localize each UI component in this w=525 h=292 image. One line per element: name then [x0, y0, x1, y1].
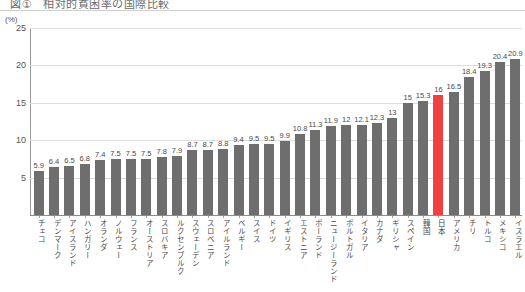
x-axis-tick	[315, 216, 316, 218]
bar[interactable]	[95, 160, 105, 215]
bar[interactable]	[264, 144, 274, 215]
bar-value-label: 18.4	[462, 68, 477, 76]
bar[interactable]	[372, 123, 382, 215]
y-tick-label: 25	[16, 23, 26, 33]
bar-value-label: 7.5	[110, 150, 120, 158]
bar-value-label: 12	[342, 116, 350, 124]
x-axis-tick	[69, 216, 70, 218]
bar[interactable]	[203, 150, 213, 215]
bar-value-label: 5.9	[33, 162, 43, 170]
bar-value-label: 16	[434, 86, 442, 94]
bar-slot: 7.8	[157, 28, 167, 215]
bar-value-label: 12.1	[354, 116, 369, 124]
bar[interactable]	[310, 130, 320, 215]
bar-value-label: 8.7	[187, 141, 197, 149]
bar-slot: 8.7	[203, 28, 213, 215]
bar-value-label: 7.9	[172, 147, 182, 155]
bar-slot: 15	[403, 28, 413, 215]
bar-slot: 12	[341, 28, 351, 215]
bar[interactable]	[64, 166, 74, 215]
bar[interactable]	[510, 59, 520, 215]
bar[interactable]	[280, 141, 290, 215]
bar[interactable]	[295, 134, 305, 215]
bar[interactable]	[80, 164, 90, 215]
bar[interactable]	[234, 145, 244, 215]
bar[interactable]	[218, 149, 228, 215]
x-axis-tick	[300, 216, 301, 218]
x-axis-tick	[116, 216, 117, 218]
bar[interactable]	[157, 157, 167, 215]
x-axis-label: アイスランド	[63, 219, 75, 267]
x-axis-tick	[208, 216, 209, 218]
bar[interactable]	[172, 156, 182, 215]
bar-highlighted[interactable]	[433, 95, 443, 215]
bar-value-label: 6.8	[80, 155, 90, 163]
bar[interactable]	[403, 103, 413, 215]
x-axis-tick	[223, 216, 224, 218]
bar[interactable]	[111, 159, 121, 215]
bar[interactable]	[326, 126, 336, 215]
x-axis-label: イギリス	[279, 219, 291, 251]
x-axis-tick	[331, 216, 332, 218]
bar[interactable]	[34, 171, 44, 215]
x-axis-label: アメリカ	[448, 219, 460, 251]
x-axis-label: チリ	[463, 219, 475, 235]
bar-value-label: 12.3	[370, 114, 385, 122]
bar-slot: 11.9	[326, 28, 336, 215]
bar[interactable]	[495, 62, 505, 215]
x-axis-label: トルコ	[479, 219, 491, 243]
bar[interactable]	[449, 92, 459, 215]
bar-slot: 7.4	[95, 28, 105, 215]
bar[interactable]	[126, 159, 136, 215]
x-axis-label: エストニア	[294, 219, 306, 259]
bar-value-label: 6.4	[49, 158, 59, 166]
x-axis-tick	[500, 216, 501, 218]
bar[interactable]	[387, 118, 397, 215]
bar-slot: 10.8	[295, 28, 305, 215]
bar[interactable]	[249, 144, 259, 215]
bar-value-label: 20.4	[493, 53, 508, 61]
bar-slot: 15.3	[418, 28, 428, 215]
bar[interactable]	[49, 167, 59, 215]
bar-slot: 13	[387, 28, 397, 215]
x-axis-tick	[515, 216, 516, 218]
bar[interactable]	[464, 77, 474, 215]
x-axis-tick	[162, 216, 163, 218]
bar[interactable]	[418, 101, 428, 215]
x-axis-tick	[269, 216, 270, 218]
x-axis-label: メキシコ	[494, 219, 506, 251]
x-axis-tick	[254, 216, 255, 218]
bar-slot: 7.5	[111, 28, 121, 215]
bar[interactable]	[341, 125, 351, 215]
x-axis-label: ドイツ	[263, 219, 275, 243]
x-axis-tick	[469, 216, 470, 218]
bar-slot: 19.3	[480, 28, 490, 215]
x-axis-label: イタリア	[356, 219, 368, 251]
bar-slot: 8.8	[218, 28, 228, 215]
x-axis-label: ハンガリー	[79, 219, 91, 259]
bar-value-label: 7.5	[141, 150, 151, 158]
bar-slot: 9.9	[280, 28, 290, 215]
bar[interactable]	[480, 71, 490, 215]
bar-slot: 7.5	[126, 28, 136, 215]
x-axis-tick	[146, 216, 147, 218]
bar[interactable]	[187, 150, 197, 215]
bar-value-label: 9.9	[279, 132, 289, 140]
bar-slot: 7.5	[141, 28, 151, 215]
x-axis-label: スウェーデン	[186, 219, 198, 267]
x-axis-label: ルクセンブルク	[171, 219, 183, 275]
bar-slot: 9.5	[249, 28, 259, 215]
x-axis-tick	[85, 216, 86, 218]
bar-value-label: 7.5	[126, 150, 136, 158]
bar-slot: 6.5	[64, 28, 74, 215]
bar-slot: 8.7	[187, 28, 197, 215]
bar-slot: 16	[433, 28, 443, 215]
x-axis-tick	[177, 216, 178, 218]
bar[interactable]	[141, 159, 151, 215]
bar[interactable]	[357, 125, 367, 216]
x-axis-tick	[485, 216, 486, 218]
bar-value-label: 11.3	[308, 121, 322, 129]
x-axis-label: チェコ	[33, 219, 45, 243]
x-axis-tick	[100, 216, 101, 218]
bar-value-label: 8.7	[203, 141, 213, 149]
